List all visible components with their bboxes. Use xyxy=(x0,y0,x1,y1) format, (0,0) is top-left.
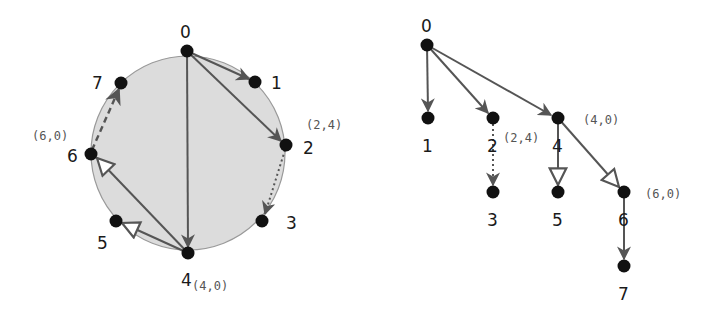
right-tree-graph: 0 1 2 3 4 5 6 7 (2,4) (4,0) (6,0) xyxy=(421,16,682,304)
node-7 xyxy=(115,77,128,90)
node-label-1: 1 xyxy=(271,73,282,93)
tree-coord-label-4: (4,0) xyxy=(583,113,619,127)
tree-node-5 xyxy=(552,186,565,199)
node-label-3: 3 xyxy=(286,213,297,233)
node-4 xyxy=(182,247,195,260)
node-6 xyxy=(85,148,98,161)
coord-label-4: (4,0) xyxy=(192,279,228,293)
edge-0-4 xyxy=(187,51,188,247)
tree-edge-0-1 xyxy=(427,45,428,111)
tree-node-label-5: 5 xyxy=(552,210,563,230)
tree-node-label-2: 2 xyxy=(487,136,498,156)
node-5 xyxy=(110,215,123,228)
tree-node-0 xyxy=(421,39,434,52)
tree-node-label-6: 6 xyxy=(618,210,629,230)
tree-node-label-3: 3 xyxy=(487,210,498,230)
tree-node-3 xyxy=(487,186,500,199)
node-0 xyxy=(181,45,194,58)
node-1 xyxy=(249,76,262,89)
node-label-5: 5 xyxy=(97,233,108,253)
diagram-canvas: 0 1 2 3 4 5 6 7 (2,4) (4,0) (6,0) xyxy=(0,0,716,316)
tree-node-label-1: 1 xyxy=(422,136,433,156)
node-label-0: 0 xyxy=(180,22,191,42)
right-node-labels: 0 1 2 3 4 5 6 7 (2,4) (4,0) (6,0) xyxy=(421,16,681,304)
node-label-6: 6 xyxy=(67,146,78,166)
tree-node-label-7: 7 xyxy=(618,284,629,304)
tree-node-1 xyxy=(422,112,435,125)
coord-label-6: (6,0) xyxy=(32,129,68,143)
tree-edge-4-6 xyxy=(558,118,619,187)
tree-node-4 xyxy=(552,112,565,125)
tree-node-2 xyxy=(487,112,500,125)
node-2 xyxy=(280,139,293,152)
node-label-4: 4 xyxy=(181,270,192,290)
tree-edge-0-4 xyxy=(427,45,551,115)
tree-node-label-4: 4 xyxy=(552,136,563,156)
node-3 xyxy=(256,215,269,228)
node-label-2: 2 xyxy=(303,138,314,158)
tree-coord-label-2: (2,4) xyxy=(503,131,539,145)
left-circular-graph: 0 1 2 3 4 5 6 7 (2,4) (4,0) (6,0) xyxy=(32,22,342,293)
right-edges xyxy=(427,45,624,259)
tree-node-7 xyxy=(618,260,631,273)
tree-node-label-0: 0 xyxy=(421,16,432,36)
tree-node-6 xyxy=(618,186,631,199)
tree-coord-label-6: (6,0) xyxy=(645,187,681,201)
node-label-7: 7 xyxy=(92,73,103,93)
tree-edge-0-2 xyxy=(427,45,488,113)
coord-label-2: (2,4) xyxy=(306,118,342,132)
